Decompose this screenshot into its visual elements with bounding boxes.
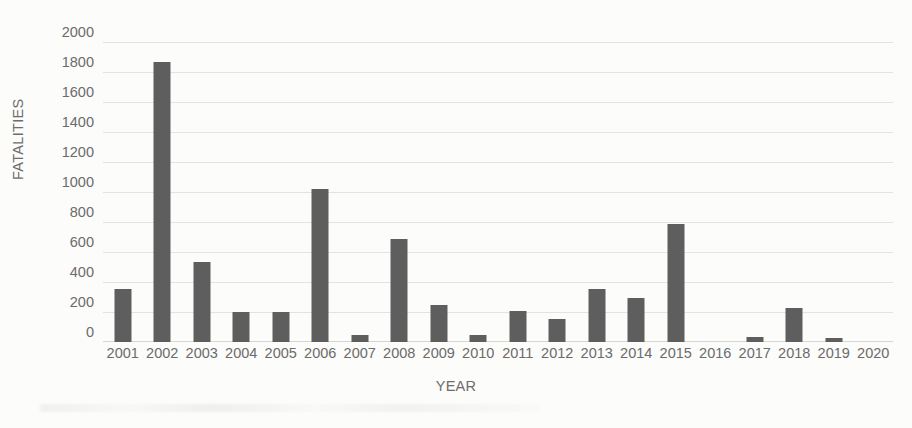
scan-artifact — [40, 404, 540, 412]
x-tick-label: 2006 — [304, 345, 336, 361]
x-tick-label: 2014 — [620, 345, 652, 361]
x-tick-label: 2010 — [462, 345, 494, 361]
bar-slot — [301, 42, 341, 342]
bar-slot — [696, 42, 736, 342]
bar-slot — [656, 42, 696, 342]
bar[interactable] — [746, 337, 763, 342]
x-tick-label: 2003 — [186, 345, 218, 361]
bar-slot — [380, 42, 420, 342]
y-tick-label: 1400 — [42, 114, 94, 130]
bar[interactable] — [312, 189, 329, 342]
bar[interactable] — [786, 308, 803, 342]
x-tick-label: 2012 — [541, 345, 573, 361]
bar-series — [103, 42, 893, 342]
bar-slot — [143, 42, 183, 342]
bar-slot — [617, 42, 657, 342]
x-tick-label: 2008 — [383, 345, 415, 361]
y-axis-tick-labels: 2000 1800 1600 1400 1200 1000 800 600 40… — [42, 32, 94, 352]
bar-slot — [538, 42, 578, 342]
bar-slot — [182, 42, 222, 342]
bar[interactable] — [430, 305, 447, 342]
bar-slot — [340, 42, 380, 342]
x-tick-label: 2017 — [739, 345, 771, 361]
x-tick-label: 2018 — [778, 345, 810, 361]
y-tick-label: 1800 — [42, 54, 94, 70]
x-tick-label: 2020 — [857, 345, 889, 361]
x-axis-title: YEAR — [0, 378, 912, 394]
x-tick-label: 2009 — [423, 345, 455, 361]
bar-slot — [498, 42, 538, 342]
bar[interactable] — [549, 319, 566, 342]
y-tick-label: 2000 — [42, 24, 94, 40]
y-tick-label: 800 — [42, 204, 94, 220]
bar[interactable] — [272, 312, 289, 342]
bar[interactable] — [509, 311, 526, 343]
bar-slot — [459, 42, 499, 342]
bar-slot — [814, 42, 854, 342]
y-tick-label: 0 — [42, 324, 94, 340]
x-tick-label: 2004 — [225, 345, 257, 361]
bar-slot — [775, 42, 815, 342]
bar[interactable] — [628, 298, 645, 342]
bar-slot — [222, 42, 262, 342]
y-tick-label: 1200 — [42, 144, 94, 160]
y-tick-label: 1600 — [42, 84, 94, 100]
bar[interactable] — [154, 62, 171, 342]
plot-area — [103, 42, 893, 342]
bar[interactable] — [470, 335, 487, 342]
x-tick-label: 2007 — [344, 345, 376, 361]
bar-slot — [735, 42, 775, 342]
bar-slot — [854, 42, 894, 342]
bar-slot — [103, 42, 143, 342]
bar-slot — [261, 42, 301, 342]
x-tick-label: 2001 — [107, 345, 139, 361]
bar[interactable] — [193, 262, 210, 342]
x-tick-label: 2013 — [581, 345, 613, 361]
bar[interactable] — [233, 312, 250, 342]
x-tick-label: 2011 — [502, 345, 533, 361]
bar[interactable] — [114, 289, 131, 342]
bar[interactable] — [667, 224, 684, 343]
bar[interactable] — [391, 239, 408, 342]
y-axis-title: FATALITIES — [10, 20, 34, 180]
bar-slot — [419, 42, 459, 342]
bar[interactable] — [825, 338, 842, 342]
x-tick-label: 2015 — [660, 345, 692, 361]
y-tick-label: 200 — [42, 294, 94, 310]
y-tick-label: 600 — [42, 234, 94, 250]
bar[interactable] — [351, 335, 368, 343]
fatalities-by-year-bar-chart: FATALITIES 2000 1800 1600 1400 1200 1000… — [0, 0, 912, 428]
y-tick-label: 1000 — [42, 174, 94, 190]
y-tick-label: 400 — [42, 264, 94, 280]
x-tick-label: 2016 — [699, 345, 731, 361]
x-axis-tick-labels: 2001200220032004200520062007200820092010… — [103, 345, 893, 369]
x-tick-label: 2002 — [146, 345, 178, 361]
bar[interactable] — [588, 289, 605, 342]
x-tick-label: 2019 — [818, 345, 850, 361]
x-tick-label: 2005 — [265, 345, 297, 361]
bar-slot — [577, 42, 617, 342]
